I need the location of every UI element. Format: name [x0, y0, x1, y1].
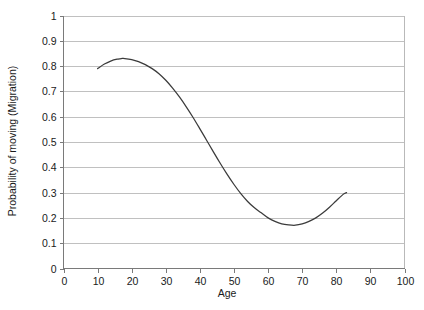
x-tick-label: 60 [263, 275, 275, 287]
x-tick-label: 100 [397, 275, 415, 287]
x-tick-label: 70 [297, 275, 309, 287]
y-tick-label: 0.4 [42, 161, 57, 173]
y-tick-label: 1 [51, 10, 57, 22]
y-tick-label: 0 [51, 263, 57, 275]
y-tick-label: 0.9 [42, 35, 57, 47]
x-tick-label: 10 [93, 275, 105, 287]
y-tick-label: 0.3 [42, 187, 57, 199]
y-tick-label: 0.5 [42, 136, 57, 148]
migration-probability-line-chart: 0102030405060708090100 00.10.20.30.40.50… [0, 0, 424, 310]
x-tick-label: 80 [331, 275, 343, 287]
y-axis-title: Probability of moving (Migration) [6, 66, 18, 217]
y-tick-label: 0.2 [42, 212, 57, 224]
y-tick-label: 0.6 [42, 111, 57, 123]
x-tick-label: 50 [229, 275, 241, 287]
x-tick-label: 90 [365, 275, 377, 287]
x-tick-label: 40 [195, 275, 207, 287]
chart-container: 0102030405060708090100 00.10.20.30.40.50… [0, 0, 424, 310]
x-axis-title: Age [218, 287, 237, 299]
y-tick-label: 0.1 [42, 237, 57, 249]
x-tick-label: 20 [127, 275, 139, 287]
y-tick-label: 0.7 [42, 85, 57, 97]
x-tick-label: 0 [62, 275, 68, 287]
y-tick-label: 0.8 [42, 60, 57, 72]
x-tick-label: 30 [161, 275, 173, 287]
